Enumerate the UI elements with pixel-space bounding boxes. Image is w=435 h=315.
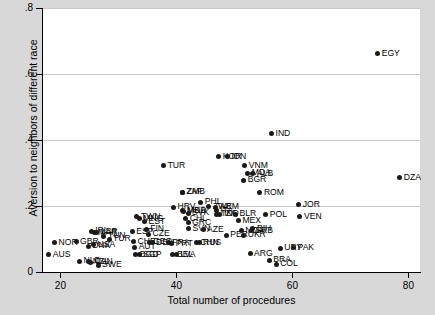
data-point[interactable] — [216, 154, 221, 159]
data-point[interactable] — [201, 227, 206, 232]
data-point-label: ARG — [254, 249, 273, 258]
data-point[interactable] — [397, 175, 402, 180]
data-point-label: TUR — [113, 234, 131, 243]
x-tick-label-0: 20 — [40, 280, 80, 291]
data-point-label: POL — [270, 210, 287, 219]
data-point-label: ROM — [264, 188, 284, 197]
y-axis-title: Aversion to neighbors of different race — [27, 13, 39, 243]
data-point[interactable] — [130, 229, 135, 234]
data-point[interactable] — [186, 226, 191, 231]
data-point[interactable] — [375, 51, 380, 56]
data-point[interactable] — [142, 219, 147, 224]
data-point[interactable] — [278, 246, 283, 251]
data-point[interactable] — [150, 240, 155, 245]
data-point-label: AUS — [53, 250, 71, 259]
x-tick-3 — [408, 273, 409, 278]
data-point[interactable] — [248, 251, 253, 256]
data-point[interactable] — [263, 212, 268, 217]
data-point[interactable] — [274, 262, 279, 267]
data-point[interactable] — [180, 190, 185, 195]
x-tick-label-1: 40 — [156, 280, 196, 291]
data-point[interactable] — [161, 163, 166, 168]
data-point[interactable] — [236, 218, 241, 223]
data-point-label: SRB — [255, 226, 273, 235]
data-point[interactable] — [46, 252, 51, 257]
data-point-label: VEN — [304, 212, 322, 221]
x-axis-line — [42, 272, 421, 273]
data-point-label: ALB — [257, 169, 273, 178]
data-point[interactable] — [297, 214, 302, 219]
data-point-label: AZE — [207, 225, 224, 234]
data-point[interactable] — [132, 245, 137, 250]
data-point[interactable] — [171, 205, 176, 210]
data-point[interactable] — [241, 178, 246, 183]
data-point[interactable] — [249, 228, 254, 233]
data-point[interactable] — [101, 234, 106, 239]
data-point-label: PRT — [176, 239, 193, 248]
data-point-label: EGY — [382, 49, 400, 58]
x-tick-label-3: 80 — [388, 280, 428, 291]
data-point-label: NZL — [93, 257, 109, 266]
data-point-label: COL — [280, 259, 298, 268]
data-point-label: JOR — [303, 200, 320, 209]
y-tick-4 — [36, 8, 42, 9]
data-point[interactable] — [74, 239, 79, 244]
x-axis-title: Total number of procedures — [43, 294, 420, 306]
data-point[interactable] — [269, 131, 274, 136]
y-tick-label-0: 0 — [3, 267, 33, 277]
data-point-label: DZA — [404, 173, 421, 182]
data-point[interactable] — [146, 232, 151, 237]
plot-area: AUSNORGBRNLDSWECANNZLDNKIRLMARUSALBRTUNT… — [43, 8, 420, 272]
data-point-label: ZMB — [187, 187, 205, 196]
y-axis-line — [42, 8, 43, 273]
y-tick-label-4: .8 — [3, 3, 33, 13]
data-point[interactable] — [131, 239, 136, 244]
data-point[interactable] — [198, 200, 203, 205]
scatter-plot-figure: AUSNORGBRNLDSWECANNZLDNKIRLMARUSALBRTUNT… — [0, 0, 435, 315]
x-tick-0 — [60, 273, 61, 278]
data-point-label: SGP — [143, 250, 161, 259]
x-tick-2 — [292, 273, 293, 278]
data-point[interactable] — [267, 258, 272, 263]
gridline-y-3 — [43, 74, 420, 75]
data-point[interactable] — [257, 190, 262, 195]
data-point-label: LVA — [180, 250, 195, 259]
data-point[interactable] — [107, 237, 112, 242]
data-point[interactable] — [224, 233, 229, 238]
y-tick-0 — [36, 272, 42, 273]
x-tick-1 — [176, 273, 177, 278]
data-point[interactable] — [86, 244, 91, 249]
data-point[interactable] — [77, 259, 82, 264]
data-point-label: IDN — [231, 152, 246, 161]
data-point[interactable] — [233, 212, 238, 217]
data-point[interactable] — [225, 154, 230, 159]
data-point[interactable] — [52, 240, 57, 245]
data-point-label: TUR — [168, 161, 186, 170]
data-point[interactable] — [206, 204, 211, 209]
gridline-y-4 — [43, 8, 420, 9]
data-point-label: PAK — [298, 243, 315, 252]
x-tick-label-2: 60 — [272, 280, 312, 291]
data-point[interactable] — [242, 163, 247, 168]
gridline-y-2 — [43, 140, 420, 141]
data-point[interactable] — [186, 220, 191, 225]
data-point[interactable] — [137, 252, 142, 257]
data-point-label: IND — [276, 129, 291, 138]
data-point-label: RUS — [203, 238, 221, 247]
